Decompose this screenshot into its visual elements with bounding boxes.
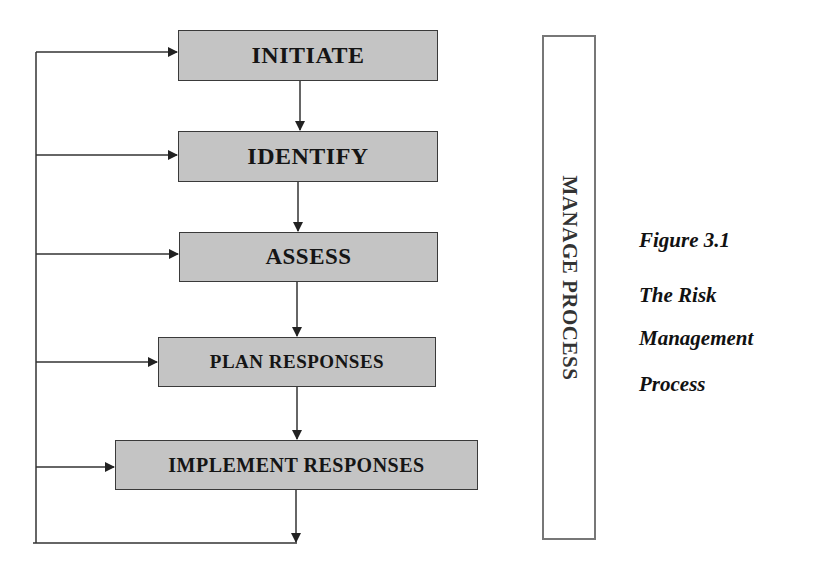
figure-number: Figure 3.1 (639, 228, 730, 253)
manage-process-bar: MANAGE PROCESS (542, 35, 596, 540)
step-identify: IDENTIFY (178, 131, 438, 182)
step-plan-responses: PLAN RESPONSES (158, 337, 436, 387)
manage-process-label: MANAGE PROCESS (557, 175, 582, 380)
step-label: INITIATE (252, 42, 365, 69)
step-label: IDENTIFY (247, 143, 368, 170)
step-label: PLAN RESPONSES (210, 351, 384, 373)
step-initiate: INITIATE (178, 30, 438, 81)
step-label: IMPLEMENT RESPONSES (168, 454, 424, 477)
caption-line-2: Management (639, 326, 753, 351)
caption-line-3: Process (639, 372, 706, 397)
caption-line-1: The Risk (639, 283, 717, 308)
step-implement-responses: IMPLEMENT RESPONSES (115, 440, 478, 490)
step-assess: ASSESS (179, 232, 438, 282)
step-label: ASSESS (265, 244, 351, 270)
